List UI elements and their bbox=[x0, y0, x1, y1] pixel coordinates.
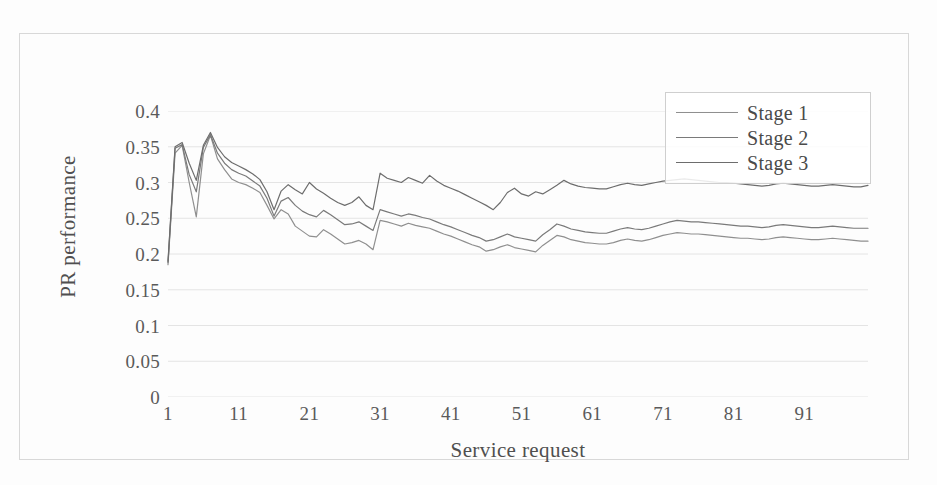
legend-item-1[interactable]: Stage 1 bbox=[676, 100, 860, 125]
legend-item-label: Stage 2 bbox=[747, 128, 809, 148]
legend-item-label: Stage 3 bbox=[747, 153, 809, 173]
legend-line-swatch bbox=[676, 162, 738, 163]
x-axis-tick-label: 51 bbox=[512, 404, 532, 423]
y-axis-tick-label: 0.15 bbox=[90, 281, 160, 300]
y-axis-title: PR performance bbox=[56, 117, 81, 337]
y-axis-tick-label: 0.3 bbox=[90, 174, 160, 193]
y-axis-tick-label: 0 bbox=[90, 388, 160, 407]
legend-item-label: Stage 1 bbox=[747, 103, 809, 123]
x-axis-tick-labels: 1112131415161718191 bbox=[168, 404, 868, 432]
y-axis-tick-label: 0.1 bbox=[90, 317, 160, 336]
x-axis-tick-label: 91 bbox=[795, 404, 815, 423]
y-axis-tick-label: 0.25 bbox=[90, 209, 160, 228]
legend-line-swatch bbox=[676, 112, 738, 113]
x-axis-tick-label: 31 bbox=[370, 404, 390, 423]
x-axis-tick-label: 41 bbox=[441, 404, 461, 423]
legend-item-3[interactable]: Stage 3 bbox=[676, 150, 860, 175]
x-axis-tick-label: 61 bbox=[582, 404, 602, 423]
x-axis-tick-label: 71 bbox=[653, 404, 673, 423]
y-axis-tick-labels: 00.050.10.150.20.250.30.350.4 bbox=[88, 111, 160, 397]
x-axis-tick-label: 81 bbox=[724, 404, 744, 423]
legend-item-2[interactable]: Stage 2 bbox=[676, 125, 860, 150]
x-axis-tick-label: 1 bbox=[163, 404, 173, 423]
y-axis-tick-label: 0.35 bbox=[90, 138, 160, 157]
y-axis-tick-label: 0.05 bbox=[90, 352, 160, 371]
y-axis-tick-label: 0.2 bbox=[90, 245, 160, 264]
chart-legend: Stage 1Stage 2Stage 3 bbox=[665, 92, 871, 184]
y-axis-tick-label: 0.4 bbox=[90, 102, 160, 121]
legend-line-swatch bbox=[676, 137, 738, 138]
x-axis-tick-label: 11 bbox=[229, 404, 248, 423]
chart-frame: PR performance 00.050.10.150.20.250.30.3… bbox=[19, 33, 909, 460]
x-axis-tick-label: 21 bbox=[300, 404, 320, 423]
x-axis-title: Service request bbox=[168, 438, 868, 463]
